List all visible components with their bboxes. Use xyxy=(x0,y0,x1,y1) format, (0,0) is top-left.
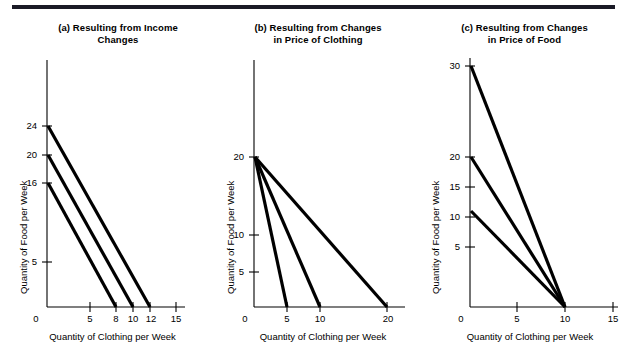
panel-a-budget-line-low xyxy=(48,183,116,307)
panel-b-budget-line-low-price xyxy=(255,157,387,307)
panel-b-ytick-label-5: 5 xyxy=(239,266,244,277)
panel-a-xtick-label-8: 8 xyxy=(113,313,118,324)
panel-c-ytick-label-20: 20 xyxy=(449,151,460,162)
panel-c-ytick-label-10: 10 xyxy=(449,211,460,222)
panel-b-xtick-label-0: 0 xyxy=(242,313,247,324)
chart-panel-b: (b) Resulting from Changes in Price of C… xyxy=(205,18,415,354)
panel-b-xtick-label-20: 20 xyxy=(383,313,394,324)
panel-a-ytick-label-20: 20 xyxy=(26,149,37,160)
panel-b-ytick-label-10: 10 xyxy=(233,229,244,240)
panel-b-xtick-label-10: 10 xyxy=(315,313,326,324)
panel-a-ytick-label-5: 5 xyxy=(32,256,37,267)
panel-a-ytick-label-24: 24 xyxy=(26,120,37,131)
panel-c-ytick-label-5: 5 xyxy=(455,241,460,252)
panel-c-budget-line-low-price xyxy=(471,66,565,307)
panel-b-xtick-label-5: 5 xyxy=(284,313,289,324)
panel-c-ytick-label-15: 15 xyxy=(449,181,460,192)
panel-a-xtick-label-10: 10 xyxy=(128,313,139,324)
panel-c-xtick-label-5: 5 xyxy=(514,313,519,324)
panel-b-budget-line-middle-price xyxy=(255,157,320,307)
panel-a-x-axis-label: Quantity of Clothing per Week xyxy=(30,331,195,342)
panel-a-plot-area: 5 16 20 24 0 5 8 10 12 15 xyxy=(0,18,210,323)
panel-c-budget-line-middle-price xyxy=(471,157,565,307)
panel-c-xtick-label-15: 15 xyxy=(608,313,619,324)
panel-c-ytick-label-30: 30 xyxy=(449,60,460,71)
panel-a-xtick-label-0: 0 xyxy=(33,313,38,324)
panel-b-svg: 5 10 20 0 5 10 20 xyxy=(205,18,415,323)
chart-panel-a: (a) Resulting from Income Changes Quanti… xyxy=(0,18,210,354)
panel-c-xtick-label-10: 10 xyxy=(560,313,571,324)
panel-c-svg: 5 10 15 20 30 0 5 10 15 xyxy=(410,18,625,323)
panel-c-budget-line-high-price xyxy=(471,211,565,307)
panel-a-ytick-label-16: 16 xyxy=(26,177,37,188)
panel-a-xtick-label-15: 15 xyxy=(171,313,182,324)
panel-b-x-axis-label: Quantity of Clothing per Week xyxy=(238,331,408,342)
panel-c-xtick-label-0: 0 xyxy=(458,313,463,324)
panel-a-budget-line-high xyxy=(48,126,150,307)
panel-a-xtick-label-5: 5 xyxy=(87,313,92,324)
panel-c-plot-area: 5 10 15 20 30 0 5 10 15 xyxy=(410,18,625,323)
panel-b-ytick-label-20: 20 xyxy=(233,151,244,162)
figure-top-rule xyxy=(12,5,615,9)
panel-a-svg: 5 16 20 24 0 5 8 10 12 15 xyxy=(0,18,210,323)
panel-b-plot-area: 5 10 20 0 5 10 20 xyxy=(205,18,415,323)
panel-c-x-axis-label: Quantity of Clothing per Week xyxy=(445,331,615,342)
chart-panel-c: (c) Resulting from Changes in Price of F… xyxy=(410,18,625,354)
panel-a-xtick-label-12: 12 xyxy=(146,313,157,324)
panel-a-budget-line-middle xyxy=(48,155,133,307)
panel-b-budget-line-high-price xyxy=(255,157,287,307)
